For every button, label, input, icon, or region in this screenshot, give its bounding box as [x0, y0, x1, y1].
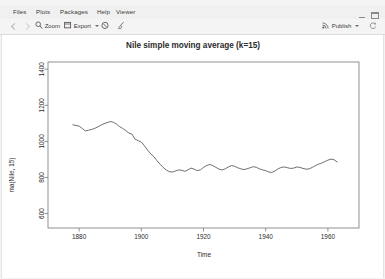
- export-button[interactable]: Export: [64, 21, 99, 32]
- plots-toolbar: Zoom Export: [0, 19, 385, 35]
- plot-canvas: Nile simple moving average (k=15) ma(Nil…: [1, 35, 384, 278]
- broom-clear-icon: [117, 21, 126, 30]
- export-icon: [64, 21, 72, 30]
- remove-plot-button[interactable]: [101, 21, 109, 32]
- x-tick-label: 1960: [321, 233, 336, 240]
- minimize-icon[interactable]: [358, 12, 366, 19]
- data-series-line: [73, 122, 337, 173]
- x-tick-label: 1880: [72, 233, 87, 240]
- tab-help[interactable]: Help: [94, 5, 113, 18]
- remove-plot-icon: [101, 21, 109, 30]
- chart-title: Nile simple moving average (k=15): [126, 41, 260, 50]
- export-label: Export: [74, 21, 91, 32]
- tab-packages[interactable]: Packages: [57, 5, 91, 18]
- x-axis-title: Time: [197, 251, 211, 258]
- y-tick-label: 1400: [38, 62, 45, 77]
- zoom-button[interactable]: Zoom: [35, 21, 60, 32]
- tab-viewer[interactable]: Viewer: [113, 5, 138, 18]
- x-tick-label: 1920: [196, 233, 211, 240]
- rstudio-plots-pane: Files Plots Packages Help Viewer: [0, 0, 385, 279]
- clear-all-plots-button[interactable]: [117, 21, 126, 32]
- y-axis-title: ma(Nile, 15): [8, 158, 16, 193]
- y-tick-label: 800: [38, 172, 45, 183]
- y-axis-ticks: 600800100012001400: [38, 62, 48, 219]
- maximize-icon[interactable]: [371, 12, 379, 19]
- publish-label: Publish: [332, 21, 352, 32]
- magnifier-icon: [35, 21, 43, 30]
- y-tick-label: 1200: [38, 98, 45, 113]
- refresh-button[interactable]: [369, 21, 377, 32]
- chevron-down-icon: [355, 25, 359, 27]
- plot-frame: [48, 62, 359, 228]
- publish-icon: [321, 21, 330, 30]
- chevron-down-icon: [95, 25, 99, 27]
- y-tick-label: 600: [38, 208, 45, 219]
- tab-plots[interactable]: Plots: [33, 5, 53, 18]
- tab-files[interactable]: Files: [10, 5, 30, 18]
- pane-tabstrip: Files Plots Packages Help Viewer: [0, 5, 385, 20]
- back-arrow-icon[interactable]: [11, 23, 18, 30]
- y-tick-label: 1000: [38, 134, 45, 149]
- x-tick-label: 1900: [134, 233, 149, 240]
- x-axis-ticks: 18801900192019401960: [72, 228, 335, 240]
- forward-arrow-icon[interactable]: [23, 23, 30, 30]
- x-tick-label: 1940: [259, 233, 274, 240]
- refresh-icon: [369, 21, 377, 30]
- nile-moving-average-chart: Nile simple moving average (k=15) ma(Nil…: [2, 35, 384, 278]
- zoom-label: Zoom: [45, 21, 60, 32]
- publish-button[interactable]: Publish: [321, 21, 359, 32]
